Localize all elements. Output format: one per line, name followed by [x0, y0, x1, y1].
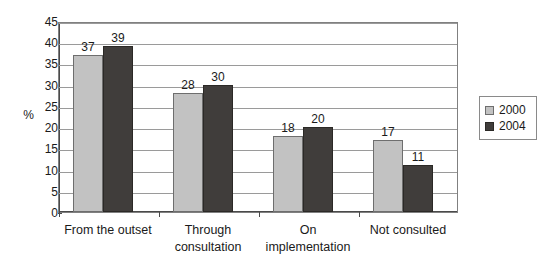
y-tick-label: 25 — [18, 101, 58, 113]
legend-item: 2000 — [485, 102, 530, 118]
x-tick-mark — [259, 212, 260, 217]
y-tick-label: 10 — [18, 165, 58, 177]
legend-label: 2000 — [499, 104, 526, 116]
x-axis-category-labels: From the outsetThroughconsultationOnimpl… — [58, 222, 458, 267]
bar-value-label: 39 — [97, 32, 139, 44]
bar — [403, 165, 433, 212]
y-axis-line — [59, 23, 60, 212]
bar — [103, 46, 133, 212]
bar — [203, 85, 233, 212]
gridline — [59, 23, 457, 24]
bar-value-label: 17 — [367, 126, 409, 138]
bar-value-label: 11 — [397, 151, 439, 163]
legend: 20002004 — [479, 96, 537, 140]
y-axis-ticks: 454035302520151050 — [0, 22, 58, 213]
x-tick-mark — [59, 212, 60, 217]
bar-value-label: 30 — [197, 71, 239, 83]
y-tick-label: 35 — [18, 58, 58, 70]
y-tick-label: 40 — [18, 37, 58, 49]
y-tick-label: 20 — [18, 122, 58, 134]
bar — [73, 55, 103, 212]
x-category-label-line: Not consulted — [338, 222, 478, 239]
bar — [303, 127, 333, 212]
bar — [273, 136, 303, 212]
bar-value-label: 20 — [297, 113, 339, 125]
bar-chart: % 454035302520151050 3739283018201711 Fr… — [0, 0, 542, 269]
x-category-label-line: implementation — [238, 239, 378, 256]
legend-item: 2004 — [485, 118, 530, 134]
x-tick-mark — [359, 212, 360, 217]
y-tick-label: 5 — [18, 186, 58, 198]
legend-label: 2004 — [499, 120, 526, 132]
plot-area: 3739283018201711 — [58, 22, 458, 213]
y-tick-label: 0 — [18, 207, 58, 219]
bar — [173, 93, 203, 212]
x-tick-mark — [159, 212, 160, 217]
legend-swatch-icon — [485, 122, 494, 131]
legend-swatch-icon — [485, 106, 494, 115]
y-tick-label: 30 — [18, 80, 58, 92]
y-tick-label: 15 — [18, 143, 58, 155]
y-tick-label: 45 — [18, 16, 58, 28]
x-category-label: Not consulted — [338, 222, 478, 239]
